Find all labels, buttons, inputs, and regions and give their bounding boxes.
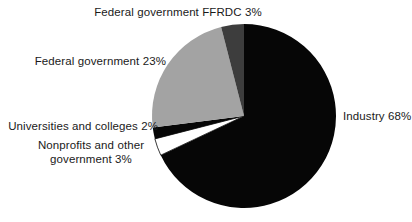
pie-slices <box>152 24 336 208</box>
pie-label-universities-and-colleges: Universities and colleges 2% <box>0 120 158 134</box>
pie-chart: Federal government FFRDC 3% Federal gove… <box>0 0 412 222</box>
pie-label-industry: Industry 68% <box>343 110 412 124</box>
pie-label-nonprofits-line-1: Nonprofits and other <box>38 139 144 151</box>
pie-label-nonprofits-and-other-government: Nonprofits and othergovernment 3% <box>24 139 158 166</box>
pie-label-nonprofits-line-2: government 3% <box>50 153 132 165</box>
pie-label-federal-government-ffrdc: Federal government FFRDC 3% <box>88 6 268 20</box>
pie-label-federal-government: Federal government 23% <box>22 55 166 69</box>
